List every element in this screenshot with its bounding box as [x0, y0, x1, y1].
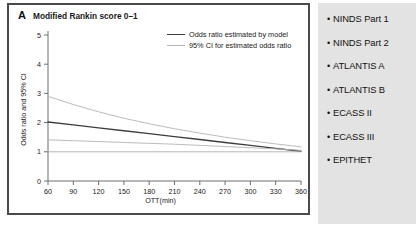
trial-list: •NINDS Part 1•NINDS Part 2•ATLANTIS A•AT… — [324, 13, 416, 178]
x-tick-label: 120 — [93, 187, 105, 196]
list-item-label: ECASS III — [333, 131, 374, 142]
y-tick-label: 2 — [37, 118, 41, 127]
list-item[interactable]: •NINDS Part 2 — [324, 37, 416, 61]
bullet-icon: • — [324, 109, 333, 118]
x-tick-label: 90 — [69, 187, 77, 196]
x-tick-label: 270 — [219, 187, 231, 196]
y-tick-label: 4 — [37, 60, 41, 69]
line-chart-svg: 0123456090120150180210240270300330360 — [9, 5, 312, 217]
list-item[interactable]: •EPITHET — [324, 154, 416, 178]
y-tick-label: 0 — [37, 177, 41, 186]
x-tick-label: 360 — [295, 187, 307, 196]
list-item-label: EPITHET — [333, 154, 372, 165]
list-item[interactable]: •ATLANTIS A — [324, 60, 416, 84]
list-item-label: NINDS Part 1 — [333, 13, 389, 24]
x-axis-title: OTT(min) — [9, 196, 312, 205]
bullet-icon: • — [324, 15, 333, 24]
list-item-label: ECASS II — [333, 107, 372, 118]
chart-series-line — [48, 122, 301, 151]
bullet-icon: • — [324, 86, 333, 95]
list-item[interactable]: •NINDS Part 1 — [324, 13, 416, 37]
list-item[interactable]: •ECASS III — [324, 131, 416, 155]
bullet-icon: • — [324, 156, 333, 165]
y-tick-label: 1 — [37, 147, 41, 156]
plot-area: 0123456090120150180210240270300330360 Od… — [9, 5, 312, 217]
list-item-label: ATLANTIS A — [333, 60, 384, 71]
x-tick-label: 180 — [143, 187, 155, 196]
x-tick-label: 210 — [169, 187, 181, 196]
bullet-icon: • — [324, 133, 333, 142]
x-tick-label: 240 — [194, 187, 206, 196]
x-tick-label: 60 — [44, 187, 52, 196]
bullet-icon: • — [324, 39, 333, 48]
list-item[interactable]: •ECASS II — [324, 107, 416, 131]
x-tick-label: 150 — [118, 187, 130, 196]
list-item-label: NINDS Part 2 — [333, 37, 389, 48]
x-tick-label: 300 — [244, 187, 256, 196]
trial-list-panel: •NINDS Part 1•NINDS Part 2•ATLANTIS A•AT… — [318, 3, 416, 224]
chart-series-line — [48, 140, 301, 151]
y-tick-label: 5 — [37, 31, 41, 40]
list-item[interactable]: •ATLANTIS B — [324, 84, 416, 108]
y-axis-title: Odds ratio and 95% CI — [19, 60, 28, 160]
y-tick-label: 3 — [37, 89, 41, 98]
x-tick-label: 330 — [270, 187, 282, 196]
bullet-icon: • — [324, 62, 333, 71]
chart-panel: A Modified Rankin score 0–1 Odds ratio e… — [7, 3, 310, 215]
figure-root: A Modified Rankin score 0–1 Odds ratio e… — [0, 0, 416, 227]
list-item-label: ATLANTIS B — [333, 84, 385, 95]
chart-series-line — [48, 96, 301, 147]
